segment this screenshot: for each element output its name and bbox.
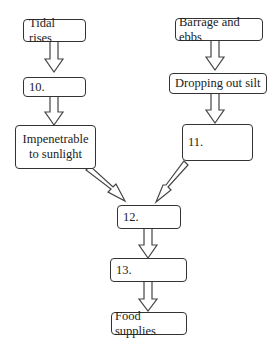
node-label: Impenetrable to sunlight: [21, 132, 90, 162]
arrow-down-icon: [45, 96, 63, 125]
arrow-diagonal-icon: [156, 161, 188, 202]
node-impenetrable-to-sunlight: Impenetrable to sunlight: [15, 125, 96, 169]
node-label: Dropping out silt: [175, 76, 260, 91]
node-label: 10.: [29, 80, 45, 95]
arrow-down-icon: [206, 93, 224, 123]
node-barrage-and-ebbs: Barrage and ebbs: [175, 18, 263, 41]
arrows-layer: [0, 0, 278, 351]
node-dropping-out-silt: Dropping out silt: [169, 73, 267, 94]
node-blank-12: 12.: [117, 205, 181, 229]
arrow-diagonal-icon: [86, 166, 125, 201]
node-label: Food supplies: [115, 309, 183, 339]
node-tidal-rises: Tidal rises: [23, 19, 86, 42]
node-label: 12.: [123, 210, 139, 225]
node-label: 13.: [116, 263, 132, 278]
node-label: Tidal rises: [29, 16, 80, 46]
arrow-down-icon: [139, 281, 157, 311]
node-label: 11.: [188, 135, 203, 150]
node-blank-10: 10.: [23, 77, 86, 97]
arrow-down-icon: [45, 41, 63, 72]
node-blank-11: 11.: [182, 124, 253, 161]
node-label: Barrage and ebbs: [179, 15, 259, 45]
arrow-down-icon: [206, 40, 224, 70]
node-food-supplies: Food supplies: [111, 312, 187, 335]
arrow-down-icon: [139, 228, 157, 258]
node-blank-13: 13.: [110, 258, 187, 282]
